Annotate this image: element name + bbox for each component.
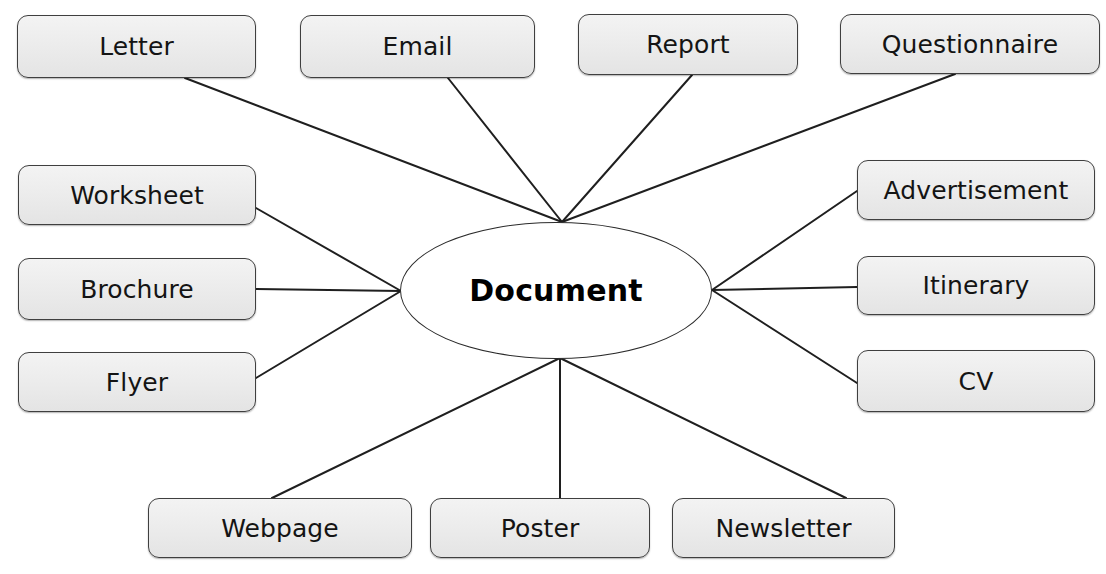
- connector-advertisement: [712, 191, 857, 290]
- node-label-questionnaire: Questionnaire: [876, 32, 1064, 57]
- node-webpage[interactable]: Webpage: [148, 498, 412, 558]
- node-label-email: Email: [377, 34, 459, 59]
- node-label-cv: CV: [953, 369, 1000, 394]
- node-label-advertisement: Advertisement: [878, 178, 1075, 203]
- connector-cv: [712, 290, 857, 383]
- node-label-newsletter: Newsletter: [709, 516, 857, 541]
- cropped-top-text: [0, 0, 1106, 6]
- connector-flyer: [256, 291, 401, 378]
- node-letter[interactable]: Letter: [17, 15, 256, 78]
- node-poster[interactable]: Poster: [430, 498, 650, 558]
- connector-itinerary: [712, 287, 857, 290]
- node-label-worksheet: Worksheet: [64, 183, 210, 208]
- central-node-document[interactable]: Document: [400, 222, 712, 359]
- node-label-poster: Poster: [495, 516, 586, 541]
- node-label-itinerary: Itinerary: [917, 273, 1036, 298]
- node-email[interactable]: Email: [300, 15, 535, 78]
- connector-newsletter: [560, 358, 846, 498]
- node-label-webpage: Webpage: [215, 516, 345, 541]
- node-brochure[interactable]: Brochure: [18, 258, 256, 320]
- connector-report: [562, 75, 692, 222]
- node-itinerary[interactable]: Itinerary: [857, 256, 1095, 315]
- node-advertisement[interactable]: Advertisement: [857, 160, 1095, 220]
- node-label-letter: Letter: [93, 34, 180, 59]
- node-worksheet[interactable]: Worksheet: [18, 165, 256, 225]
- concept-map-canvas: LetterEmailReportQuestionnaireWorksheetB…: [0, 0, 1106, 574]
- node-flyer[interactable]: Flyer: [18, 352, 256, 412]
- central-node-label: Document: [469, 276, 643, 306]
- node-label-flyer: Flyer: [100, 370, 174, 395]
- node-newsletter[interactable]: Newsletter: [672, 498, 895, 558]
- node-label-report: Report: [640, 32, 735, 57]
- connector-webpage: [272, 358, 560, 498]
- node-report[interactable]: Report: [578, 14, 798, 75]
- node-questionnaire[interactable]: Questionnaire: [840, 14, 1100, 74]
- connector-worksheet: [256, 208, 401, 291]
- connector-brochure: [256, 289, 401, 291]
- node-cv[interactable]: CV: [857, 350, 1095, 412]
- node-label-brochure: Brochure: [74, 277, 200, 302]
